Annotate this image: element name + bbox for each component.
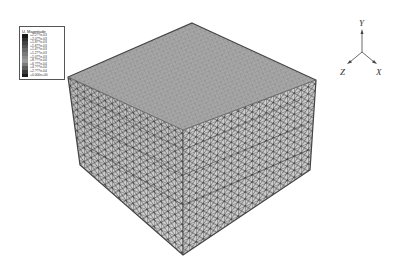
z-axis-label: Z	[340, 67, 345, 77]
axis-triad: Y Z X	[330, 10, 390, 80]
y-axis-label: Y	[359, 18, 364, 28]
x-axis-label: X	[376, 67, 382, 77]
